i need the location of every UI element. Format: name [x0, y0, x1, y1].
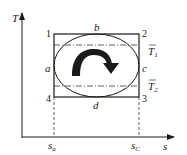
t-axis-label: T [12, 12, 19, 24]
corner-2: 2 [142, 28, 147, 39]
svg-text:T2: T2 [148, 80, 158, 94]
ts-diagram: T s sa sC 1 2 3 4 b a c d T1 T2 [0, 0, 187, 155]
label-d: d [93, 99, 99, 111]
corner-3: 3 [142, 93, 147, 104]
svg-text:T1: T1 [148, 45, 158, 59]
corner-4: 4 [46, 93, 51, 104]
sc-label: sC [131, 139, 140, 153]
label-b: b [94, 21, 100, 33]
label-c: c [142, 62, 147, 74]
clockwise-arrow-icon [72, 49, 119, 76]
label-a: a [45, 62, 51, 74]
corner-1: 1 [46, 28, 51, 39]
s-axis-label: s [163, 140, 167, 152]
t2-mean-label: T2 [148, 80, 158, 94]
cycle-ellipse [54, 34, 139, 97]
t1-mean-label: T1 [148, 45, 158, 59]
sa-label: sa [48, 139, 56, 153]
